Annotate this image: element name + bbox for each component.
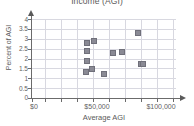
gridline-horizontal: [32, 59, 176, 60]
data-point: [84, 48, 90, 54]
data-point: [84, 58, 90, 64]
data-point: [119, 49, 125, 55]
x-tick-mark: [109, 98, 110, 102]
x-tick-label: $50,000: [84, 103, 109, 110]
x-tick-mark: [141, 98, 142, 102]
y-tick-label: 0.5: [2, 85, 28, 92]
gridline-horizontal: [32, 29, 176, 30]
x-tick-mark: [173, 98, 174, 102]
data-point: [135, 30, 141, 36]
chart-title: Income (AGI): [0, 0, 194, 6]
scatter-chart: Income (AGI) 4 3.5 3 2.5 2 1.5 1 0.5 0: [0, 0, 194, 126]
x-tick-mark: [125, 98, 126, 102]
x-axis-arrow-icon: [180, 95, 186, 101]
x-tick-mark: [157, 98, 158, 102]
y-axis-line: [31, 14, 32, 99]
data-point: [140, 61, 146, 67]
x-axis-title: Average AGI: [32, 113, 176, 122]
gridline-horizontal: [32, 88, 176, 89]
data-point: [89, 66, 95, 72]
x-tick-label: $0: [30, 103, 38, 110]
gridline-horizontal: [32, 68, 176, 69]
y-axis-title: Percent of AGI: [5, 13, 12, 83]
y-axis-arrow-icon: [28, 10, 34, 16]
x-tick-mark: [93, 98, 94, 102]
plot-area: [32, 19, 176, 98]
gridline-horizontal: [32, 78, 176, 79]
data-point: [110, 50, 116, 56]
x-axis-line: [31, 98, 181, 99]
x-tick-mark: [45, 98, 46, 102]
data-point: [101, 71, 107, 77]
data-point: [83, 69, 89, 75]
gridline-horizontal: [32, 19, 176, 20]
data-point: [91, 38, 97, 44]
x-tick-mark: [77, 98, 78, 102]
gridline-horizontal: [32, 39, 176, 40]
x-tick-mark: [32, 98, 33, 102]
data-point: [84, 40, 90, 46]
x-tick-label: $100,000: [146, 103, 175, 110]
y-tick-label: 0: [2, 94, 28, 101]
gridline-horizontal: [32, 49, 176, 50]
x-tick-mark: [61, 98, 62, 102]
